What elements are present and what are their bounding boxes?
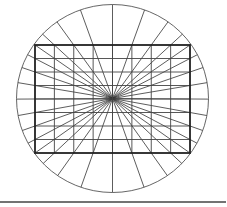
radial-ray	[18, 99, 112, 116]
radial-ray	[113, 55, 198, 99]
radial-ray	[28, 55, 113, 99]
radial-ray	[58, 99, 113, 176]
radial-ray	[113, 99, 197, 144]
radial-ray	[113, 99, 207, 116]
diagram-canvas	[0, 0, 227, 207]
geometric-diagram	[0, 0, 227, 207]
radial-ray	[113, 99, 168, 176]
radial-ray	[57, 22, 113, 99]
radial-ray	[34, 44, 112, 98]
radial-ray	[113, 22, 169, 99]
radial-ray	[113, 44, 191, 98]
radial-ray	[81, 99, 113, 188]
radial-ray	[28, 99, 112, 144]
radial-ray	[113, 99, 145, 188]
